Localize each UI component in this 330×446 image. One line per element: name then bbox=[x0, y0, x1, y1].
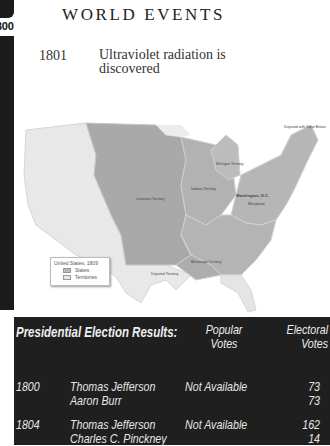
label-louisiana: Louisiana Territory bbox=[136, 197, 165, 201]
row-candidate: Thomas Jefferson bbox=[70, 380, 155, 394]
label-mississippi: Mississippi Territory bbox=[191, 260, 222, 264]
label-michigan: Michigan Territory bbox=[216, 162, 244, 166]
page-title: WORLD EVENTS bbox=[62, 5, 225, 25]
label-maryland: Maryland bbox=[248, 201, 264, 206]
row-year: 1804 bbox=[16, 418, 40, 432]
side-tab bbox=[0, 36, 14, 310]
table-title: Presidential Election Results: bbox=[16, 325, 177, 339]
header-popular-votes: Popular Votes bbox=[191, 323, 257, 351]
label-disputed: Disputed Territory bbox=[151, 272, 179, 276]
label-washington: Washington, D.C. bbox=[236, 193, 269, 198]
row-electoral: 73 bbox=[266, 394, 320, 408]
row-electoral: 14 bbox=[266, 432, 320, 446]
row-year: 1800 bbox=[16, 380, 40, 394]
row-electoral: 162 bbox=[266, 418, 320, 432]
map-legend: United States, 1809 States Territories bbox=[50, 257, 110, 286]
row-electoral: 73 bbox=[266, 380, 320, 394]
label-indiana: Indiana Territory bbox=[191, 187, 216, 191]
side-tab-year: 1800 bbox=[0, 20, 14, 32]
row-candidate: Thomas Jefferson bbox=[70, 418, 155, 432]
row-popular: Not Available bbox=[185, 418, 247, 432]
states-swatch bbox=[63, 268, 71, 273]
legend-item-states: States bbox=[63, 267, 106, 273]
event-year: 1801 bbox=[39, 48, 67, 64]
row-popular: Not Available bbox=[185, 380, 247, 394]
label-british: Disputed with Great Britain bbox=[284, 125, 326, 129]
event-description: Ultraviolet radiation is discovered bbox=[99, 48, 259, 76]
row-candidate: Charles C. Pinckney bbox=[70, 432, 167, 446]
territories-swatch bbox=[63, 275, 71, 280]
legend-title: United States, 1809 bbox=[54, 260, 106, 266]
side-tab-top bbox=[0, 0, 14, 18]
election-results-table: Presidential Election Results: Popular V… bbox=[14, 317, 330, 445]
row-candidate: Aaron Burr bbox=[70, 394, 122, 408]
legend-item-territories: Territories bbox=[63, 274, 106, 280]
header-electoral-votes: Electoral Votes bbox=[267, 323, 328, 351]
